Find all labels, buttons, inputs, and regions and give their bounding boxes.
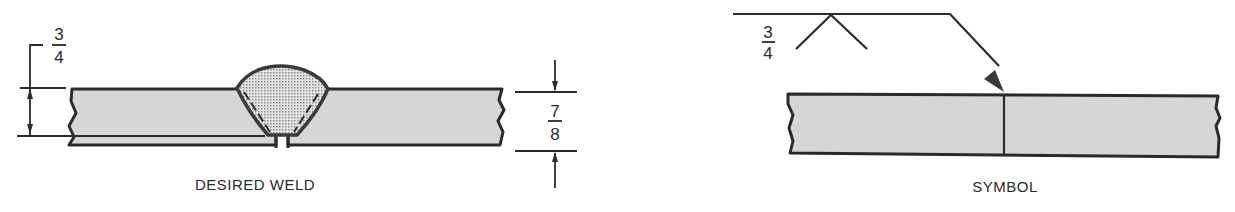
desired-weld-panel: 3 4 7 8 DESIRED WELD xyxy=(17,25,577,193)
penetration-numerator: 3 xyxy=(54,25,63,44)
reference-line xyxy=(733,14,999,66)
desired-weld-caption: DESIRED WELD xyxy=(195,176,315,193)
thickness-dimension: 7 8 xyxy=(515,60,577,188)
symbol-panel: 3 4 SYMBOL xyxy=(733,14,1220,195)
weld-diagram: 3 4 7 8 DESIRED WELD 3 4 xyxy=(0,0,1235,212)
thickness-denominator: 8 xyxy=(550,125,559,144)
symbol-denominator: 4 xyxy=(763,44,772,63)
symbol-numerator: 3 xyxy=(763,23,772,42)
v-groove-symbol xyxy=(796,15,867,49)
penetration-denominator: 4 xyxy=(54,48,63,67)
penetration-dimension: 3 4 xyxy=(20,25,66,135)
symbol-caption: SYMBOL xyxy=(972,178,1038,195)
arrow-head xyxy=(984,70,1004,92)
thickness-numerator: 7 xyxy=(550,102,559,121)
